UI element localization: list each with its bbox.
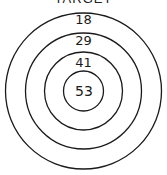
ring-label-third: 41	[75, 55, 92, 70]
ring-label-inner: 53	[75, 83, 93, 99]
ring-label-second: 29	[75, 33, 92, 48]
concentric-target-diagram: 18 29 41 53	[0, 0, 167, 175]
ring-label-outer: 18	[75, 12, 92, 27]
